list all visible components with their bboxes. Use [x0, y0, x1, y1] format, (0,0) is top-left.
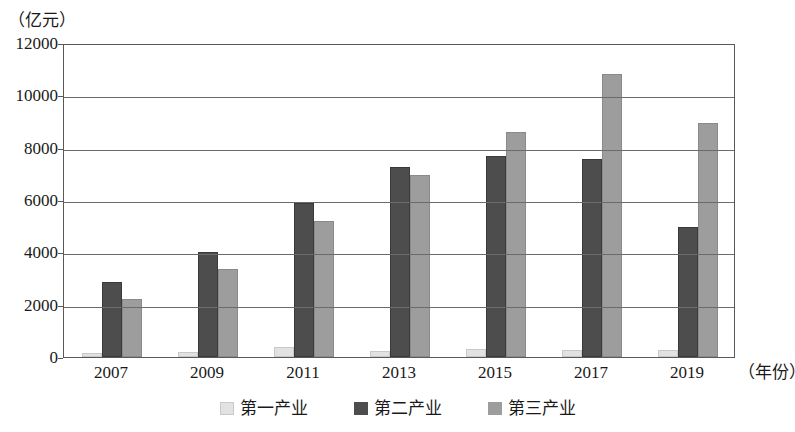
legend-item[interactable]: 第三产业 — [488, 400, 576, 417]
legend-label: 第一产业 — [240, 400, 308, 417]
legend-swatch-icon — [488, 402, 502, 415]
legend-item[interactable]: 第二产业 — [354, 400, 442, 417]
legend-swatch-icon — [220, 402, 234, 415]
gridline — [64, 202, 734, 203]
bar — [466, 349, 486, 357]
plot-area — [63, 44, 735, 358]
gridline — [64, 254, 734, 255]
bar — [506, 132, 526, 357]
y-axis-tick-label: 10000 — [2, 87, 58, 104]
y-axis-tick-labels: 020004000600080001000012000 — [0, 44, 58, 358]
x-axis-tick-label: 2015 — [478, 362, 512, 384]
bar — [198, 252, 218, 357]
y-axis-tick-label: 8000 — [2, 140, 58, 157]
bar — [294, 203, 314, 357]
legend-label: 第二产业 — [374, 400, 442, 417]
bar-group — [370, 45, 430, 357]
x-axis-unit-label: （年份） — [738, 362, 795, 384]
bar-group — [178, 45, 238, 357]
bar — [582, 159, 602, 357]
y-axis-tick-label: 6000 — [2, 192, 58, 209]
bar-group — [562, 45, 622, 357]
gridline — [64, 307, 734, 308]
bar-chart: （亿元） 020004000600080001000012000 2007200… — [0, 0, 795, 432]
x-axis-tick-label: 2011 — [286, 362, 319, 384]
x-axis-tick-label: 2009 — [190, 362, 224, 384]
x-axis-tick-label: 2013 — [382, 362, 416, 384]
y-axis-tick-label: 0 — [2, 349, 58, 366]
bar — [658, 350, 678, 357]
y-axis-tick-label: 12000 — [2, 35, 58, 52]
bar — [486, 156, 506, 357]
bar — [562, 350, 582, 357]
bar — [602, 74, 622, 357]
x-axis-tick-label: 2019 — [670, 362, 704, 384]
bar — [82, 353, 102, 357]
bar — [678, 227, 698, 357]
bar-group — [658, 45, 718, 357]
bar-group — [274, 45, 334, 357]
legend-label: 第三产业 — [508, 400, 576, 417]
legend-swatch-icon — [354, 402, 368, 415]
bar — [274, 347, 294, 357]
bars-layer — [64, 45, 734, 357]
bar-group — [466, 45, 526, 357]
bar — [698, 123, 718, 357]
gridline — [64, 150, 734, 151]
x-axis-tick-label: 2007 — [94, 362, 128, 384]
y-axis-tick-mark — [58, 358, 63, 359]
gridline — [64, 97, 734, 98]
bar — [370, 351, 390, 357]
bar — [390, 167, 410, 357]
y-axis-tick-label: 4000 — [2, 244, 58, 261]
chart-legend: 第一产业第二产业第三产业 — [0, 400, 795, 417]
y-axis-tick-label: 2000 — [2, 297, 58, 314]
bar — [218, 269, 238, 357]
bar-group — [82, 45, 142, 357]
y-axis-unit-label: （亿元） — [8, 6, 76, 31]
x-axis-tick-label: 2017 — [574, 362, 608, 384]
bar — [178, 352, 198, 357]
bar — [102, 282, 122, 357]
legend-item[interactable]: 第一产业 — [220, 400, 308, 417]
bar — [314, 221, 334, 357]
x-axis-tick-labels: 2007200920112013201520172019 — [63, 362, 735, 388]
